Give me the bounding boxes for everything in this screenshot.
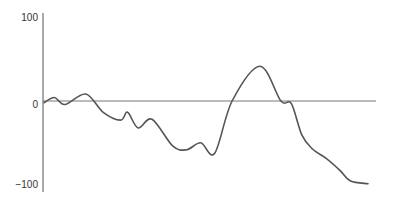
data-line [44,66,368,184]
line-chart: 100 0 −100 [0,0,394,203]
y-tick-label-100: 100 [21,12,38,23]
y-tick-label-minus-100: −100 [15,179,38,190]
y-tick-label-0: 0 [32,99,38,110]
